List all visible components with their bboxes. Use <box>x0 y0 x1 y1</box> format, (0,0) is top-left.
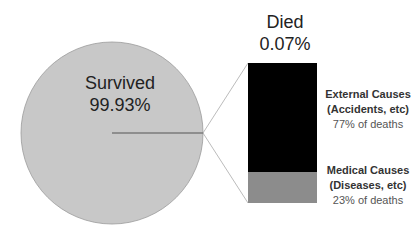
external-name-line2: (Accidents, etc) <box>318 102 418 117</box>
pie-label-survived: Survived 99.93% <box>60 72 180 116</box>
connector-top <box>203 63 248 133</box>
segment-label-medical: Medical Causes (Diseases, etc) 23% of de… <box>318 163 418 208</box>
bar-segment-external <box>248 63 317 172</box>
bar-segment-medical <box>248 172 317 203</box>
died-label: Died <box>240 11 330 33</box>
connector-bottom <box>203 133 248 203</box>
medical-name-line1: Medical Causes <box>318 163 418 178</box>
external-percent: 77% of deaths <box>318 117 418 132</box>
bar-title-died: Died 0.07% <box>240 11 330 55</box>
medical-percent: 23% of deaths <box>318 193 418 208</box>
segment-label-external: External Causes (Accidents, etc) 77% of … <box>318 87 418 132</box>
survived-label: Survived <box>60 72 180 94</box>
medical-name-line2: (Diseases, etc) <box>318 178 418 193</box>
external-name-line1: External Causes <box>318 87 418 102</box>
died-percent: 0.07% <box>240 33 330 55</box>
survived-percent: 99.93% <box>60 94 180 116</box>
